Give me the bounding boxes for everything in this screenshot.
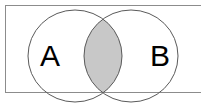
- set-a-label: A: [40, 39, 60, 72]
- set-b-label: B: [150, 39, 170, 72]
- venn-diagram: A B: [0, 0, 201, 106]
